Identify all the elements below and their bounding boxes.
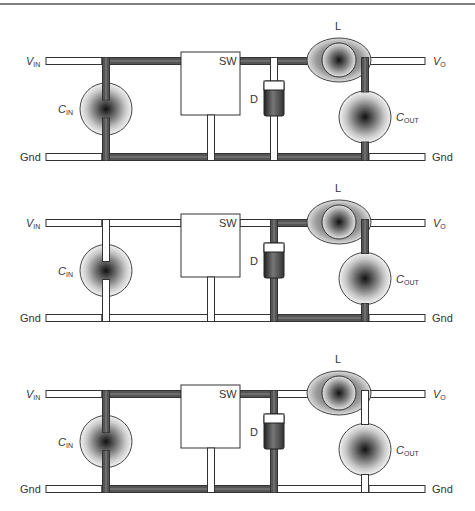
cout-label: COUT [396,273,419,286]
buck-converter-diagram: CINSWDLCOUTVINGndVOGnd CINSWDLCOUTVINGnd… [0,0,475,511]
switch-label: SW [219,217,237,229]
diode-cathode-band [264,414,284,423]
vo-label: VO [433,217,446,230]
cin-label: CIN [58,436,73,449]
switch-ground-lead [208,115,215,161]
gnd-rail-cin-to-sw [102,315,208,322]
gnd-right-label: Gnd [432,483,453,495]
gnd-left-label: Gnd [20,312,41,324]
cout-capacitor [339,253,391,305]
vo-output-stub [369,220,425,227]
cin-top-lead [103,220,110,262]
gnd-right-label: Gnd [432,151,453,163]
vo-label: VO [433,55,446,68]
cout-capacitor [339,424,391,476]
diode-label: D [250,426,258,438]
diode-cathode-band [264,243,284,252]
vin-rail-cin-to-sw [102,220,181,227]
vin-label: VIN [26,217,40,230]
cout-top-lead [362,391,369,425]
vin-label: VIN [26,388,40,401]
vin-label: VIN [26,55,40,68]
switch-ground-lead [208,277,215,322]
inductor-core [322,43,356,77]
cout-label: COUT [396,111,419,124]
diode-cathode-band [264,81,284,90]
gnd-output-stub [369,315,425,322]
gnd-input-stub [46,315,102,322]
cin-label: CIN [58,265,73,278]
sw-to-diode-trace [240,220,271,227]
switch-label: SW [219,55,237,67]
cin-bottom-lead [103,280,110,322]
gnd-input-stub [46,486,102,493]
vo-label: VO [433,388,446,401]
inductor-label: L [335,353,341,365]
gnd-output-stub [369,154,425,161]
gnd-left-label: Gnd [20,483,41,495]
gnd-rail-diode-to-cout [277,486,362,493]
gnd-right-label: Gnd [432,312,453,324]
inductor-label: L [335,20,341,32]
cin-label: CIN [58,103,73,116]
gnd-output-stub [369,486,425,493]
diode-label: D [250,255,258,267]
diode-bottom-lead [271,114,278,161]
vin-input-stub [46,58,102,65]
gnd-rail-sw-to-diode [214,315,271,322]
cout-label: COUT [396,444,419,457]
gnd-input-stub [46,154,102,161]
vo-output-stub [369,391,425,398]
cout-capacitor [339,91,391,143]
panel-switch-on-loop: CINSWDLCOUTVINGndVOGnd [20,20,453,163]
diode-top-lead [271,58,278,84]
panel-switch-off-loop: CINSWDLCOUTVINGndVOGnd [20,182,453,324]
panel-difference-loop: CINSWDLCOUTVINGndVOGnd [20,353,453,495]
gnd-left-label: Gnd [20,151,41,163]
vin-input-stub [46,220,102,227]
inductor-label: L [335,182,341,194]
switch-label: SW [219,388,237,400]
vo-output-stub [369,58,425,65]
inductor-core [322,205,356,239]
diode-label: D [250,93,258,105]
inductor-core [322,376,356,410]
vin-input-stub [46,391,102,398]
cout-bottom-lead [362,475,369,493]
switch-ground-lead [208,448,215,493]
